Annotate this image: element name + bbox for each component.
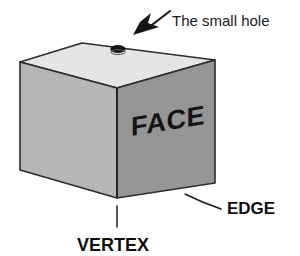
edge-leader-line xyxy=(185,194,221,209)
hole-arrow-head-icon xyxy=(133,13,159,35)
edge-annotation-label: EDGE xyxy=(227,199,275,218)
hole-annotation-label: The small hole xyxy=(172,12,270,29)
diagram-canvas: FACE The small hole EDGE VERTEX xyxy=(0,0,300,256)
vertex-annotation-group: VERTEX xyxy=(77,206,149,255)
hole-annotation-group: The small hole xyxy=(133,11,270,35)
vertex-annotation-label: VERTEX xyxy=(77,235,149,255)
hole-opening-icon xyxy=(111,45,125,52)
edge-annotation-group: EDGE xyxy=(185,194,275,218)
cube-diagram-figure: FACE The small hole EDGE VERTEX xyxy=(0,0,300,256)
